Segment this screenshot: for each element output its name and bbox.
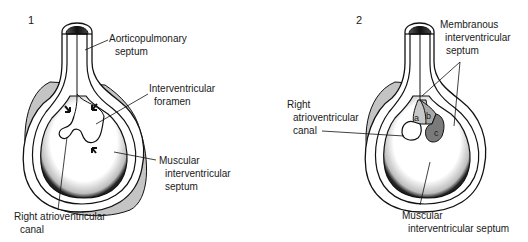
label-aorticopulmonary-septum: Aorticopulmonary (109, 33, 187, 44)
svg-text:c: c (434, 128, 439, 138)
svg-text:interventricular: interventricular (165, 168, 231, 179)
svg-text:septum: septum (115, 46, 148, 57)
svg-text:foramen: foramen (154, 96, 191, 107)
svg-text:canal: canal (20, 224, 44, 235)
label-muscular-interventricular-septum: Muscular (159, 155, 200, 166)
right-av-canal-opening (402, 121, 421, 140)
figure-1: 1 Aorticopulmonary septum Interventricul… (14, 14, 231, 235)
svg-text:a: a (414, 113, 419, 123)
svg-text:atrioventricular: atrioventricular (293, 112, 359, 123)
svg-text:canal: canal (293, 125, 317, 136)
label-right-atrioventricular-canal: Right atrioventricular (14, 211, 106, 222)
label-muscular-interventricular-septum: Muscular (402, 210, 443, 221)
svg-text:interventricular: interventricular (445, 32, 511, 43)
label-interventricular-foramen: Interventricular (149, 83, 216, 94)
figure-number-2: 2 (356, 14, 362, 26)
svg-text:b: b (426, 111, 431, 121)
heart-septation-diagram: 1 Aorticopulmonary septum Interventricul… (0, 0, 528, 242)
svg-text:interventricular septum: interventricular septum (408, 223, 509, 234)
label-membranous-interventricular-septum: Membranous (440, 19, 498, 30)
svg-text:septum: septum (165, 181, 198, 192)
svg-text:septum: septum (446, 45, 479, 56)
figure-2: 2 a b c Membranous interventricular sept… (287, 14, 511, 234)
figure-number-1: 1 (28, 14, 34, 26)
label-right-atrioventricular-canal: Right (287, 99, 311, 110)
